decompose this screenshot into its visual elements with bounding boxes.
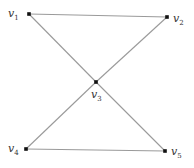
edge-v3-v4	[26, 82, 96, 149]
edge-v3-v5	[96, 82, 165, 151]
node-subscript-v3: 3	[97, 95, 101, 103]
node-label-v3: v3	[91, 88, 102, 103]
node-subscript-v5: 5	[177, 152, 181, 160]
node-label-v4: v4	[8, 142, 19, 157]
node-v4	[24, 147, 28, 151]
node-v2	[165, 15, 169, 19]
node-v1	[27, 12, 31, 16]
node-label-v2: v2	[173, 12, 184, 27]
node-label-v1: v1	[8, 7, 19, 22]
node-subscript-v2: 2	[179, 19, 183, 27]
node-subscript-v1: 1	[14, 14, 18, 22]
edge-v1-v2	[29, 14, 167, 17]
node-subscript-v4: 4	[14, 149, 19, 157]
edge-v4-v5	[26, 149, 165, 151]
node-v3	[94, 80, 98, 84]
nodes-group	[24, 12, 169, 153]
node-label-v5: v5	[171, 145, 182, 160]
edge-v1-v3	[29, 14, 96, 82]
node-v5	[163, 149, 167, 153]
graph-diagram: v1v2v3v4v5	[0, 0, 194, 168]
edge-v2-v3	[96, 17, 167, 82]
